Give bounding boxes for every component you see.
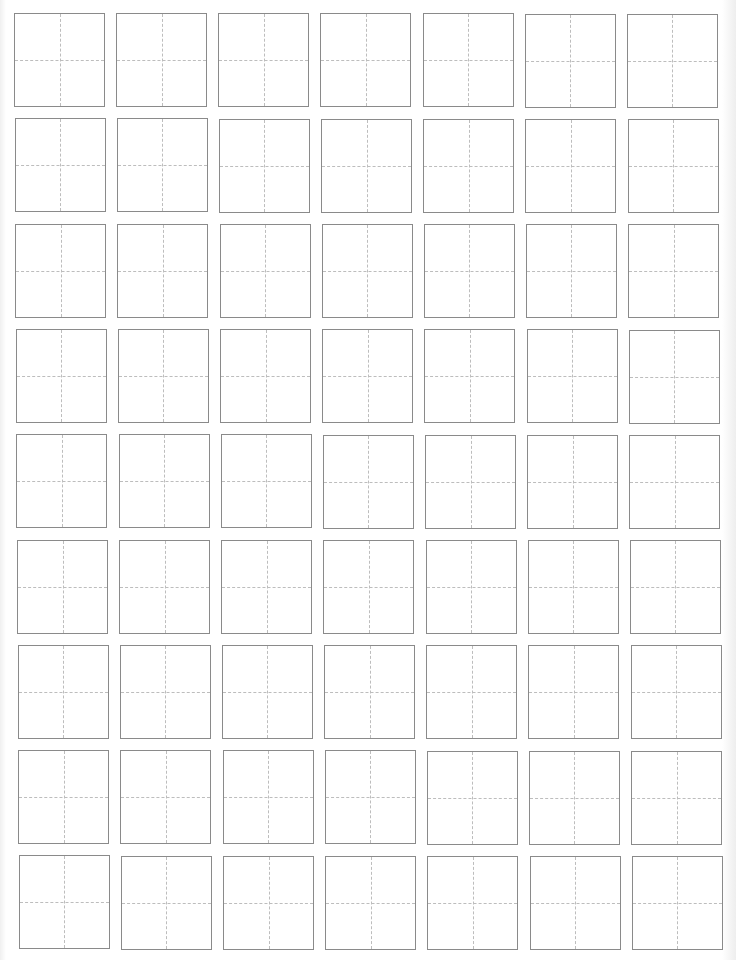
practice-cell [221, 540, 312, 634]
practice-cell [323, 540, 414, 634]
horizontal-guide-line [326, 797, 415, 798]
practice-cell [16, 329, 107, 423]
practice-cell [530, 856, 621, 950]
horizontal-guide-line [526, 61, 615, 62]
horizontal-guide-line [120, 481, 209, 482]
horizontal-guide-line [19, 797, 108, 798]
horizontal-guide-line [527, 271, 616, 272]
horizontal-guide-line [324, 482, 413, 483]
practice-cell [528, 645, 619, 739]
horizontal-guide-line [629, 166, 718, 167]
horizontal-guide-line [529, 587, 618, 588]
practice-cell [218, 13, 309, 107]
practice-cell [426, 645, 517, 739]
horizontal-guide-line [323, 271, 412, 272]
horizontal-guide-line [630, 482, 719, 483]
horizontal-guide-line [428, 903, 517, 904]
horizontal-guide-line [628, 61, 717, 62]
practice-grid-sheet [0, 0, 736, 960]
practice-cell [17, 540, 108, 634]
practice-cell [325, 750, 416, 844]
practice-cell [631, 751, 722, 845]
horizontal-guide-line [221, 271, 310, 272]
practice-cell [423, 119, 514, 213]
practice-cell [527, 435, 618, 529]
horizontal-guide-line [119, 376, 208, 377]
horizontal-guide-line [632, 692, 721, 693]
practice-cell [323, 435, 414, 529]
practice-cell [117, 118, 208, 212]
practice-cell [18, 645, 109, 739]
practice-cell [320, 13, 411, 107]
horizontal-guide-line [120, 587, 209, 588]
practice-cell [14, 13, 105, 107]
practice-cell [118, 329, 209, 423]
horizontal-guide-line [531, 903, 620, 904]
practice-cell [629, 435, 720, 529]
practice-cell [322, 329, 413, 423]
practice-cell [525, 119, 616, 213]
horizontal-guide-line [530, 798, 619, 799]
practice-cell [321, 119, 412, 213]
horizontal-guide-line [633, 903, 722, 904]
horizontal-guide-line [325, 692, 414, 693]
horizontal-guide-line [15, 60, 104, 61]
practice-cell [325, 856, 416, 950]
horizontal-guide-line [219, 60, 308, 61]
practice-cell [423, 13, 514, 107]
practice-cell [222, 645, 313, 739]
horizontal-guide-line [19, 692, 108, 693]
horizontal-guide-line [220, 166, 309, 167]
practice-cell [16, 434, 107, 528]
horizontal-guide-line [632, 798, 721, 799]
horizontal-guide-line [529, 692, 618, 693]
practice-cell [628, 224, 719, 318]
horizontal-guide-line [18, 587, 107, 588]
practice-cell [527, 329, 618, 423]
horizontal-guide-line [427, 587, 516, 588]
practice-cell [221, 434, 312, 528]
practice-cell [628, 119, 719, 213]
horizontal-guide-line [428, 798, 517, 799]
horizontal-guide-line [122, 903, 211, 904]
practice-cell [425, 435, 516, 529]
practice-cell [424, 224, 515, 318]
practice-cell [121, 856, 212, 950]
horizontal-guide-line [526, 166, 615, 167]
horizontal-guide-line [528, 376, 617, 377]
practice-cell [119, 434, 210, 528]
horizontal-guide-line [424, 60, 513, 61]
horizontal-guide-line [221, 376, 310, 377]
practice-cell [528, 540, 619, 634]
horizontal-guide-line [424, 166, 513, 167]
practice-cell [324, 645, 415, 739]
horizontal-guide-line [117, 60, 206, 61]
horizontal-guide-line [629, 271, 718, 272]
practice-cell [529, 751, 620, 845]
practice-cell [629, 330, 720, 424]
horizontal-guide-line [222, 587, 311, 588]
horizontal-guide-line [20, 902, 109, 903]
horizontal-guide-line [630, 377, 719, 378]
practice-cell [119, 540, 210, 634]
horizontal-guide-line [322, 166, 411, 167]
practice-cell [220, 329, 311, 423]
horizontal-guide-line [631, 587, 720, 588]
horizontal-guide-line [121, 692, 210, 693]
horizontal-guide-line [326, 903, 415, 904]
practice-cell [424, 329, 515, 423]
horizontal-guide-line [321, 60, 410, 61]
practice-cell [632, 856, 723, 950]
practice-cell [219, 119, 310, 213]
practice-cell [120, 645, 211, 739]
horizontal-guide-line [223, 692, 312, 693]
horizontal-guide-line [118, 271, 207, 272]
practice-cell [116, 13, 207, 107]
practice-cell [19, 855, 110, 949]
practice-cell [223, 856, 314, 950]
horizontal-guide-line [224, 797, 313, 798]
horizontal-guide-line [324, 587, 413, 588]
horizontal-guide-line [426, 482, 515, 483]
horizontal-guide-line [16, 165, 105, 166]
practice-cell [120, 750, 211, 844]
